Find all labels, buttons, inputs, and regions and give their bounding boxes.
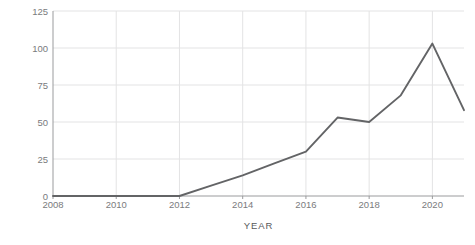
horizontal-gridlines xyxy=(53,11,464,159)
vertical-gridlines xyxy=(116,11,432,196)
plot-area xyxy=(0,0,475,245)
data-series-line xyxy=(53,44,464,196)
x-axis-title: YEAR xyxy=(53,220,464,231)
publications-line-chart: Number of publications 0255075100125 200… xyxy=(0,0,475,245)
